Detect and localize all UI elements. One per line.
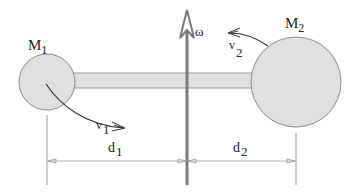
velocity-1-label: v1 bbox=[96, 118, 110, 137]
omega-label: ω bbox=[195, 24, 204, 39]
velocity-2-arrowhead-icon bbox=[228, 28, 240, 37]
mass-2-circle bbox=[251, 37, 341, 127]
rod bbox=[72, 73, 254, 88]
mass-1-label: M1 bbox=[28, 37, 47, 57]
velocity-2-label: v2 bbox=[229, 38, 243, 60]
distance-1-label: d1 bbox=[108, 140, 123, 159]
mass-2-label: M2 bbox=[285, 15, 304, 35]
mass-1-circle bbox=[19, 54, 75, 110]
dumbbell-diagram: M1 M2 ω v1 v2 d1 d2 bbox=[0, 0, 355, 195]
distance-2-label: d2 bbox=[233, 140, 248, 159]
